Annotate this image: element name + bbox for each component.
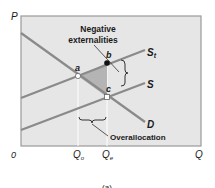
point-c [105,95,110,100]
y-axis-label: P [11,11,18,22]
point-a-label: a [75,63,80,73]
d-curve-label: D [147,119,154,130]
negative-externalities-label-1: Negative [80,24,116,34]
origin-label: 0 [11,150,16,160]
point-a [75,73,80,78]
negative-externalities-label-2: externalities [68,35,118,45]
overallocation-label: Overallocation [110,133,166,142]
externality-diagram: P 0 Q Qo Qe St S D a b c Negative extern… [0,0,215,188]
s-curve-label: S [147,79,154,90]
qe-tick-label: Qe [102,149,114,161]
x-axis-label: Q [195,149,203,160]
point-b-label: b [106,50,112,60]
point-b [104,60,110,66]
point-c-label: c [106,84,111,94]
figure-caption: (a) [102,183,112,188]
qo-tick-label: Qo [73,149,85,161]
